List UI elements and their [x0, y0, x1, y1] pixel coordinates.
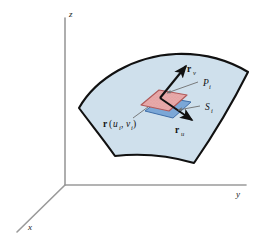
rv-label-sub: v — [193, 69, 196, 76]
position-vector-open-paren: ( — [109, 119, 112, 130]
patch-S-label-main: S — [205, 102, 210, 112]
surface-diagram: z y x r v r u — [0, 0, 264, 242]
z-axis-label: z — [68, 9, 73, 19]
position-vector-u: u — [113, 119, 118, 129]
point-P-label-main: P — [202, 78, 209, 88]
patch-S-label-sub: i — [211, 107, 213, 114]
x-axis — [17, 185, 65, 232]
figure-container: z y x r v r u — [0, 0, 264, 242]
x-axis-label: x — [27, 222, 32, 232]
position-vector-comma: , — [121, 119, 123, 129]
y-axis-label: y — [235, 189, 240, 199]
point-P-label-sub: i — [209, 83, 211, 90]
position-vector-close-paren: ) — [133, 119, 136, 130]
